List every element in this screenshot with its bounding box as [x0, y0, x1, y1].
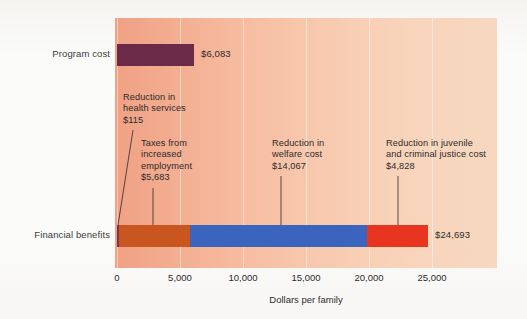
x-axis: 0 5,000 10,000 15,000 20,000 25,000 Doll… — [115, 272, 497, 316]
annotation-juvenile-justice: Reduction in juvenile and criminal justi… — [386, 138, 486, 172]
bar-segment-taxes-employment — [119, 225, 190, 247]
row-label-program-cost: Program cost — [0, 48, 110, 59]
x-tick-label-0: 0 — [114, 272, 119, 283]
x-tick-label-15000: 15,000 — [291, 272, 320, 283]
x-tick-label-25000: 25,000 — [417, 272, 446, 283]
annotation-welfare-cost: Reduction in welfare cost $14,067 — [272, 138, 324, 172]
bar-financial-benefits — [117, 225, 428, 247]
x-tick-label-5000: 5,000 — [168, 272, 192, 283]
annotation-taxes-employment: Taxes from increased employment $5,683 — [141, 138, 192, 184]
row-label-financial-benefits: Financial benefits — [0, 229, 110, 240]
plot-area: $6,083 $24,693 Reduction in health servi… — [115, 18, 497, 268]
bar-program-cost — [117, 44, 194, 66]
figure-container: $6,083 $24,693 Reduction in health servi… — [0, 0, 527, 319]
bar-segment-program-cost — [117, 44, 194, 66]
leader-line-health-services — [118, 130, 133, 225]
bar-segment-welfare-cost — [190, 225, 367, 247]
value-label-financial-benefits: $24,693 — [435, 229, 470, 240]
x-tick-label-10000: 10,000 — [228, 272, 257, 283]
value-label-program-cost: $6,083 — [201, 48, 231, 59]
x-axis-title: Dollars per family — [115, 294, 497, 305]
annotation-health-services: Reduction in health services $115 — [123, 92, 186, 126]
bar-segment-juvenile-justice — [367, 225, 428, 247]
x-tick-label-20000: 20,000 — [354, 272, 383, 283]
